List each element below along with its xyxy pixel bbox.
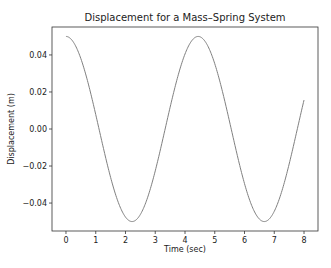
x-tick-label: 0 [63, 236, 68, 245]
x-tick-label: 3 [153, 236, 158, 245]
x-tick-label: 2 [123, 236, 128, 245]
x-tick-label: 1 [93, 236, 98, 245]
chart-title: Displacement for a Mass–Spring System [84, 12, 285, 23]
plot-area [66, 36, 304, 221]
y-axis-label: Displacement (m) [7, 93, 16, 165]
x-tick-label: 8 [301, 236, 306, 245]
y-tick-label: 0.02 [29, 88, 47, 97]
x-tick-label: 4 [182, 236, 187, 245]
x-tick-label: 7 [272, 236, 277, 245]
x-axis-label: Time (sec) [163, 245, 206, 254]
x-axis-ticks: 012345678 [63, 231, 306, 245]
x-tick-label: 6 [242, 236, 247, 245]
y-tick-label: 0.04 [29, 51, 47, 60]
axes-frame [52, 27, 318, 231]
y-axis-ticks: −0.04−0.020.000.020.04 [22, 51, 52, 208]
y-tick-label: 0.00 [29, 125, 47, 134]
x-tick-label: 5 [212, 236, 217, 245]
y-tick-label: −0.02 [22, 162, 47, 171]
y-tick-label: −0.04 [22, 199, 47, 208]
displacement-line [66, 36, 304, 221]
line-chart: Displacement for a Mass–Spring System 01… [0, 0, 331, 268]
